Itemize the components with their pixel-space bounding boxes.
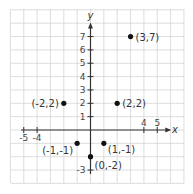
data-point — [88, 154, 93, 159]
y-tick-label: 5 — [80, 58, 86, 68]
x-tick-label: -5 — [19, 133, 28, 143]
y-tick-label: 3 — [80, 85, 86, 95]
data-point — [115, 101, 120, 106]
y-axis-label: y — [87, 10, 95, 21]
x-axis-label: x — [171, 124, 178, 135]
y-tick-label: 1 — [80, 112, 86, 122]
point-label: (1,-1) — [108, 144, 135, 155]
point-label: (-1,-1) — [42, 145, 73, 156]
y-tick-label: 4 — [80, 72, 86, 82]
x-tick-label: -4 — [33, 133, 42, 143]
point-label: (0,-2) — [95, 160, 122, 171]
data-point — [75, 141, 80, 146]
x-tick-label: 5 — [154, 118, 160, 128]
data-point — [128, 34, 133, 39]
data-point — [61, 101, 66, 106]
y-tick-label: 6 — [80, 45, 86, 55]
point-label: (3,7) — [136, 32, 160, 43]
coordinate-plane: yx7654321-3-5-445(3,7)(-2,2)(2,2)(-1,-1)… — [0, 0, 193, 194]
y-tick-label: 7 — [80, 32, 86, 42]
x-tick-label: 4 — [141, 118, 147, 128]
point-label: (2,2) — [122, 98, 146, 109]
data-point — [101, 141, 106, 146]
y-tick-label: 2 — [80, 98, 86, 108]
y-tick-label: -3 — [77, 165, 86, 175]
point-label: (-2,2) — [31, 98, 58, 109]
